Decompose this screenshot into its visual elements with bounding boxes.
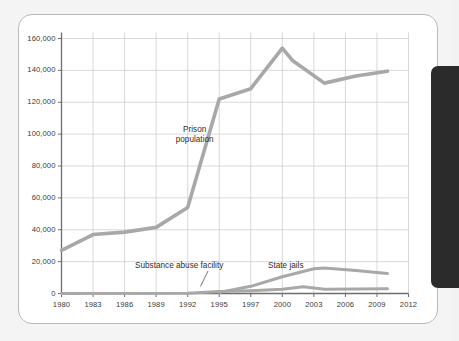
y-tick-label: 40,000 <box>0 225 56 234</box>
prison-population-label-line1: Prison <box>183 125 206 134</box>
y-tick-label: 60,000 <box>0 193 56 202</box>
y-tick-label: 100,000 <box>0 129 56 138</box>
y-tick-label: 120,000 <box>0 97 56 106</box>
x-tick-label: 1989 <box>139 300 173 309</box>
x-tick-label: 1992 <box>171 300 205 309</box>
state-jails-label: State jails <box>268 261 304 271</box>
series-line <box>62 287 388 294</box>
y-tick-label: 20,000 <box>0 257 56 266</box>
x-tick-label: 1995 <box>202 300 236 309</box>
data-series <box>62 48 388 293</box>
leader-line <box>201 271 209 287</box>
substance-abuse-facility-label: Substance abuse facility <box>135 261 223 271</box>
x-tick-label: 1983 <box>76 300 110 309</box>
prison-population-label-line2: population <box>176 135 214 144</box>
y-tick-label: 80,000 <box>0 161 56 170</box>
x-tick-label: 1986 <box>108 300 142 309</box>
x-tick-label: 2006 <box>328 300 362 309</box>
x-tick-label: 1997 <box>234 300 268 309</box>
axes <box>62 33 409 294</box>
series-line <box>62 48 388 250</box>
x-tick-label: 2003 <box>297 300 331 309</box>
x-tick-label: 1980 <box>45 300 79 309</box>
y-tick-label: 0 <box>0 289 56 298</box>
y-tick-label: 160,000 <box>0 34 56 43</box>
x-tick-label: 2009 <box>360 300 394 309</box>
prison-population-label: Prison population <box>160 125 230 145</box>
x-tick-label: 2012 <box>392 300 426 309</box>
gridlines <box>62 33 409 294</box>
y-tick-label: 140,000 <box>0 65 56 74</box>
x-tick-label: 2000 <box>265 300 299 309</box>
